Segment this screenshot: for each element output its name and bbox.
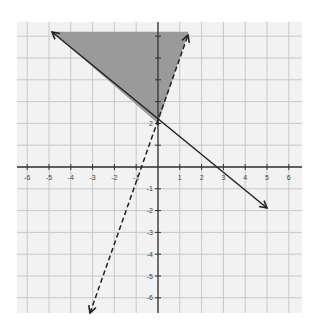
x-tick-label: -6 <box>24 174 30 181</box>
x-tick-label: 4 <box>243 174 247 181</box>
y-tick-label: -6 <box>147 294 153 301</box>
x-tick-label: 1 <box>178 174 182 181</box>
x-tick-label: -4 <box>68 174 74 181</box>
x-tick-label: -5 <box>46 174 52 181</box>
y-tick-label: -3 <box>147 229 153 236</box>
y-tick-label: -5 <box>147 273 153 280</box>
x-tick-label: 6 <box>287 174 291 181</box>
x-tick-label: -1 <box>133 174 139 181</box>
x-tick-label: 2 <box>200 174 204 181</box>
coordinate-plane: -6-5-4-3-2-1123456-6-5-4-3-2-12 <box>0 0 315 335</box>
y-tick-label: 2 <box>149 120 153 127</box>
intersection-point <box>157 122 160 125</box>
y-tick-label: -1 <box>147 185 153 192</box>
y-tick-label: -2 <box>147 207 153 214</box>
x-tick-label: -2 <box>111 174 117 181</box>
y-tick-label: -4 <box>147 251 153 258</box>
x-tick-label: -3 <box>89 174 95 181</box>
x-tick-label: 3 <box>221 174 225 181</box>
x-tick-label: 5 <box>265 174 269 181</box>
